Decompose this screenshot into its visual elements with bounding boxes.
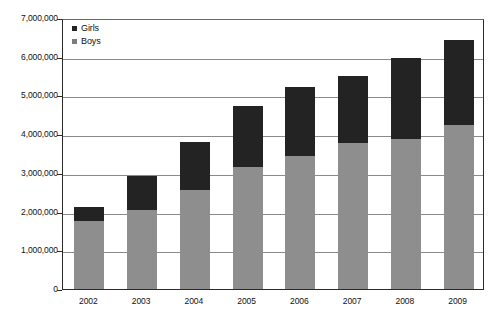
bar-group[interactable] [285,87,315,289]
y-axis-tick-label: 4,000,000 [0,130,58,139]
y-axis-tick-label: 3,000,000 [0,169,58,178]
x-axis-tick-label: 2002 [58,296,118,306]
legend-label-boys: Boys [81,36,101,46]
bar-segment-boys[interactable] [444,125,474,289]
bar-segment-girls[interactable] [74,207,104,221]
bar-segment-boys[interactable] [391,139,421,289]
legend-label-girls: Girls [81,23,99,33]
x-axis-tick-label: 2006 [269,296,329,306]
bar-group[interactable] [127,176,157,289]
legend-item-girls[interactable]: Girls [72,22,101,34]
y-axis-tick-label: 1,000,000 [0,246,58,255]
bar-group[interactable] [391,58,421,289]
y-axis-tick-label: 5,000,000 [0,91,58,100]
bar-segment-girls[interactable] [338,76,368,143]
y-axis-tick-label: 6,000,000 [0,53,58,62]
chart-legend: Girls Boys [72,22,101,48]
stacked-bar-chart: 01,000,0002,000,0003,000,0004,000,0005,0… [0,0,492,318]
bar-segment-boys[interactable] [74,221,104,289]
bar-segment-girls[interactable] [285,87,315,156]
legend-item-boys[interactable]: Boys [72,35,101,47]
x-axis-tick-label: 2007 [322,296,382,306]
plot-area [62,19,484,290]
bar-segment-boys[interactable] [127,210,157,289]
bar-group[interactable] [233,106,263,289]
x-axis-tick-label: 2003 [111,296,171,306]
bar-group[interactable] [338,76,368,289]
x-axis-tick-label: 2004 [164,296,224,306]
bar-group[interactable] [180,142,210,289]
legend-swatch-boys-icon [72,39,77,44]
bar-segment-boys[interactable] [180,190,210,289]
x-axis-tick-label: 2008 [375,296,435,306]
y-axis-tick-label: 0 [0,285,58,294]
legend-swatch-girls-icon [72,26,77,31]
bar-segment-girls[interactable] [391,58,421,139]
y-axis-tick-mark [57,290,62,291]
bar-segment-boys[interactable] [285,156,315,289]
y-axis-tick-label: 2,000,000 [0,208,58,217]
y-axis-tick-label: 7,000,000 [0,14,58,23]
bar-segment-girls[interactable] [444,40,474,125]
bar-segment-girls[interactable] [180,142,210,190]
bar-group[interactable] [74,207,104,289]
bar-segment-girls[interactable] [233,106,263,167]
x-axis-tick-label: 2005 [217,296,277,306]
x-axis-tick-label: 2009 [428,296,488,306]
bar-segment-girls[interactable] [127,176,157,210]
bar-segment-boys[interactable] [233,167,263,289]
bar-group[interactable] [444,40,474,289]
bar-segment-boys[interactable] [338,143,368,289]
